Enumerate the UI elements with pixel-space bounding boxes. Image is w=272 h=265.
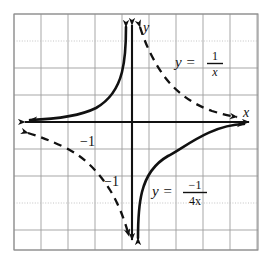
equation-denominator-reciprocal: x <box>211 65 218 79</box>
x-axis-label: x <box>242 105 250 120</box>
equation-denominator-neg-quarter: 4x <box>189 194 201 208</box>
equation-lhs-neg-quarter: y = <box>150 183 173 199</box>
tick-label-x-neg1: −1 <box>80 134 95 149</box>
y-axis-label: y <box>141 20 150 35</box>
equation-numerator-neg-quarter: −1 <box>189 178 202 192</box>
equation-numerator-reciprocal: 1 <box>212 49 218 63</box>
equation-lhs-reciprocal: y = <box>173 54 196 70</box>
tick-label-y-neg1: −1 <box>104 174 119 189</box>
coordinate-graph: y x −1 −1 y = 1 x y = −1 4x <box>0 0 272 265</box>
plot-background <box>14 14 258 250</box>
figure-container: y x −1 −1 y = 1 x y = −1 4x x y −1 −1 y … <box>0 0 272 265</box>
